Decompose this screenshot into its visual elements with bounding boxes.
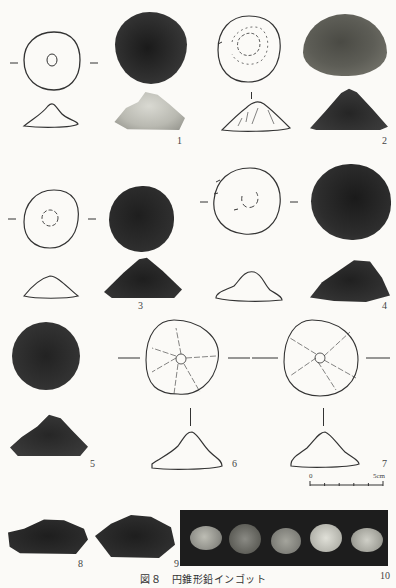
item-7-profile-drawing (287, 430, 363, 470)
item-1-top-photo (115, 12, 187, 84)
item-1-plan-drawing (8, 28, 98, 103)
item-3-plan-drawing (6, 186, 98, 252)
item-4-top-photo (311, 164, 391, 240)
item-8-number: 8 (78, 558, 83, 569)
item-8-photo (8, 518, 88, 554)
ingot-top-photo-5 (351, 528, 383, 552)
ingot-top-photo-4 (310, 524, 342, 552)
item-3-side-photo (104, 256, 182, 298)
item-6-profile-drawing (150, 430, 226, 472)
item-3-number: 3 (138, 300, 143, 311)
ingot-top-photo-2 (229, 524, 261, 554)
item-5-number: 5 (90, 458, 95, 469)
item-2-top-photo (303, 14, 387, 76)
item-2-number: 2 (382, 135, 387, 146)
item-5-side-photo (10, 414, 88, 456)
scale-start-label: 0 (309, 472, 313, 480)
item-7-number: 7 (382, 458, 387, 469)
item-4-side-photo (310, 258, 390, 302)
ingot-top-photo-1 (190, 526, 222, 550)
item-10-photo-strip (180, 510, 388, 566)
scale-end-label: 5cm (373, 472, 385, 480)
item-2-profile-drawing (218, 98, 294, 134)
item-10-number: 10 (380, 570, 390, 581)
figure-caption: 図８ 円錐形鉛インゴット (140, 571, 266, 586)
item-7-plan-drawing (252, 318, 392, 400)
item-7-section-mark (323, 408, 324, 426)
item-6-number: 6 (232, 458, 237, 469)
item-4-plan-drawing (198, 166, 302, 238)
item-6-section-mark (190, 408, 191, 426)
item-9-photo (95, 514, 175, 558)
item-1-profile-drawing (20, 100, 82, 130)
item-2-side-photo (310, 88, 388, 130)
item-1-number: 1 (177, 135, 182, 146)
item-9-number: 9 (174, 558, 179, 569)
item-3-profile-drawing (22, 272, 80, 300)
item-1-side-photo (113, 90, 185, 130)
scale-bar (309, 480, 385, 488)
item-4-number: 4 (382, 300, 387, 311)
item-4-profile-drawing (214, 268, 284, 302)
item-5-top-photo (12, 322, 80, 390)
ingot-top-photo-3 (271, 528, 301, 554)
item-3-top-photo (109, 186, 174, 252)
item-6-plan-drawing (118, 318, 252, 400)
item-2-plan-drawing (214, 14, 284, 86)
